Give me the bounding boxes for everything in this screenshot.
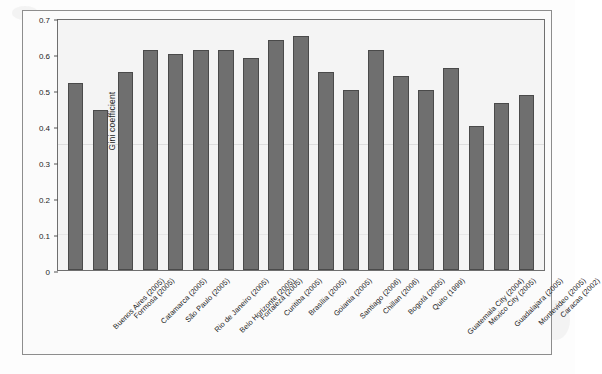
plot-area: Gini coefficient 00.10.20.30.40.50.60.7 (57, 19, 545, 271)
bar-series (58, 20, 544, 270)
bar-slot (88, 20, 113, 270)
bar-slot (238, 20, 263, 270)
y-tick-label: 0.2 (39, 196, 54, 205)
bar[interactable] (418, 90, 434, 270)
y-tick-2: 0.2 (39, 196, 58, 205)
bar-slot (364, 20, 389, 270)
y-tick-label: 0.1 (39, 232, 54, 241)
bar-slot (138, 20, 163, 270)
bar[interactable] (318, 72, 334, 270)
bar-slot (489, 20, 514, 270)
bar[interactable] (293, 36, 309, 270)
bar-slot (188, 20, 213, 270)
bar-slot (163, 20, 188, 270)
bar-slot (439, 20, 464, 270)
bar[interactable] (243, 58, 259, 270)
bar[interactable] (393, 76, 409, 270)
y-tick-label: 0.4 (39, 124, 54, 133)
bar[interactable] (469, 126, 485, 270)
bar[interactable] (519, 95, 535, 270)
y-tick-5: 0.5 (39, 88, 58, 97)
y-tick-label: 0.7 (39, 16, 54, 25)
bar-slot (113, 20, 138, 270)
bar[interactable] (193, 50, 209, 270)
bar-slot (464, 20, 489, 270)
y-tick-label: 0.5 (39, 88, 54, 97)
y-tick-label: 0.6 (39, 52, 54, 61)
y-tick-1: 0.1 (39, 232, 58, 241)
bar[interactable] (143, 50, 159, 270)
bar-slot (339, 20, 364, 270)
y-tick-label: 0 (46, 268, 54, 277)
bar-slot (288, 20, 313, 270)
y-tick-3: 0.3 (39, 160, 58, 169)
y-tick-label: 0.3 (39, 160, 54, 169)
y-tick-mark (54, 271, 58, 272)
bar-slot (414, 20, 439, 270)
bar[interactable] (268, 40, 284, 270)
y-tick-6: 0.6 (39, 52, 58, 61)
y-tick-4: 0.4 (39, 124, 58, 133)
x-axis-tick-labels: Buenos Aires (2005)Formosa (2005)Catamar… (57, 274, 545, 370)
bar[interactable] (368, 50, 384, 270)
y-tick-7: 0.7 (39, 16, 58, 25)
bar-slot (263, 20, 288, 270)
bar-slot (389, 20, 414, 270)
x-tick-label: Buenos Aires (2005) (111, 276, 166, 331)
bar[interactable] (494, 103, 510, 270)
bar[interactable] (118, 72, 134, 270)
bar[interactable] (68, 83, 84, 270)
bar-slot (213, 20, 238, 270)
bar-slot (514, 20, 539, 270)
bar[interactable] (168, 54, 184, 270)
bar[interactable] (218, 50, 234, 270)
bar[interactable] (93, 110, 109, 270)
bar-slot (313, 20, 338, 270)
bar[interactable] (443, 68, 459, 270)
bar-slot (63, 20, 88, 270)
bar[interactable] (343, 90, 359, 270)
